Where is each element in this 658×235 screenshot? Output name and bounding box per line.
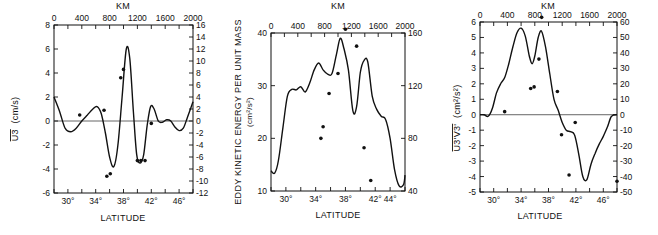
y-tick-label: -1 [468, 125, 476, 135]
y2-tick-label: -10 [196, 176, 209, 186]
x2-tick-label: 400 [75, 13, 89, 23]
bottom-axis-title: LATITUDE [100, 213, 145, 223]
y-tick-label: 4 [471, 48, 476, 58]
y-tick-label: -4 [42, 164, 50, 174]
y-axis-unit: (cm²/s²) [452, 85, 462, 118]
x2-tick-label: 0 [478, 10, 483, 20]
y-tick-label: -2 [42, 140, 50, 150]
y2-tick-label: 40 [620, 48, 630, 58]
y-tick-label: -5 [468, 187, 476, 197]
data-point [615, 179, 619, 183]
y2-tick-label: 14 [196, 32, 206, 42]
y-tick-label: 6 [471, 17, 476, 27]
chart-panel-right: KM LATITUDE U3'V3' (cm²/s²) -5-4-3-2-101… [452, 1, 633, 221]
x2-tick-label: 400 [291, 21, 305, 31]
y2-tick-label: -50 [620, 187, 633, 197]
y-tick-label: 2 [45, 92, 50, 102]
y2-tick-label: -8 [196, 164, 204, 174]
y2-tick-label: 0 [196, 116, 201, 126]
y-axis-unit: (cm²/s²) [245, 97, 254, 127]
x-tick-label: 42° [145, 196, 158, 206]
x2-tick-label: 1600 [369, 21, 388, 31]
data-point [556, 90, 560, 94]
y2-tick-label: 50 [620, 32, 630, 42]
y-tick-label: 3 [471, 63, 476, 73]
x2-tick-label: 400 [500, 10, 514, 20]
x-tick-label: 34° [309, 194, 322, 204]
data-point [108, 172, 112, 176]
chart-panel-middle: KM LATITUDE EDDY KINETIC ENERGY PER UNIT… [233, 1, 422, 220]
y2-tick-label: 4 [196, 92, 201, 102]
bottom-axis-title: LATITUDE [517, 211, 562, 221]
data-point [532, 85, 536, 89]
x2-tick-label: 1200 [553, 10, 572, 20]
y2-tick-label: -12 [196, 188, 209, 198]
x-tick-label: 30° [487, 195, 500, 205]
x2-tick-label: 2000 [396, 21, 415, 31]
y-tick-label: -6 [42, 188, 50, 198]
y2-tick-label: -10 [620, 125, 633, 135]
y-tick-label: 30 [258, 81, 268, 91]
data-point [369, 179, 373, 183]
data-point [560, 133, 564, 137]
y2-tick-label: 0 [620, 110, 625, 120]
x2-tick-label: 800 [318, 21, 332, 31]
data-point [355, 44, 359, 48]
x2-tick-label: 2000 [184, 13, 203, 23]
top-axis-title: KM [116, 1, 130, 11]
y2-tick-label: -30 [620, 156, 633, 166]
data-point [344, 28, 348, 32]
y2-tick-label: 30 [620, 63, 630, 73]
data-point [119, 76, 123, 80]
chart-panel-left: KM LATITUDE U3 (cm/s) -6-4-202468-12-10-… [10, 1, 209, 223]
data-point [537, 57, 541, 61]
y2-tick-label: 2 [196, 104, 201, 114]
data-point [319, 137, 323, 141]
data-point [139, 159, 143, 163]
x2-tick-label: 0 [52, 13, 57, 23]
y2-tick-label: 6 [196, 80, 201, 90]
y-axis-var: U3 [10, 129, 20, 141]
y-tick-label: -3 [468, 156, 476, 166]
y-tick-label: 8 [45, 20, 50, 30]
x-tick-label: 46° [173, 196, 186, 206]
y-tick-label: 1 [471, 94, 476, 104]
x-tick-label: 34° [89, 196, 102, 206]
x2-tick-label: 0 [269, 21, 274, 31]
y2-tick-label: 10 [620, 94, 630, 104]
plot-area: 10203040408012016030°34°38°42°44°0400800… [258, 21, 423, 204]
x2-tick-label: 800 [528, 10, 542, 20]
y2-tick-label: -2 [196, 128, 204, 138]
y-axis-unit: (cm/s) [10, 97, 20, 124]
plot-frame [480, 22, 617, 192]
plot-frame [54, 25, 193, 193]
x-tick-label: 44° [384, 194, 397, 204]
x-tick-label: 38° [117, 196, 130, 206]
y-tick-label: 0 [45, 116, 50, 126]
data-curve [271, 38, 405, 187]
y2-tick-label: 120 [408, 81, 422, 91]
data-point [529, 87, 533, 91]
y-tick-label: 4 [45, 68, 50, 78]
y2-tick-label: 80 [408, 133, 418, 143]
x-tick-label: 38° [542, 195, 555, 205]
data-curve [480, 28, 617, 181]
x-tick-label: 30° [279, 194, 292, 204]
data-point [336, 72, 340, 76]
data-point [327, 92, 331, 96]
y2-tick-label: -20 [620, 141, 633, 151]
y-tick-label: 40 [258, 28, 268, 38]
y-tick-label: -2 [468, 141, 476, 151]
x-tick-label: 30° [61, 196, 74, 206]
x-tick-label: 46° [597, 195, 610, 205]
y-axis-var: U3'V3' [452, 124, 462, 152]
y2-tick-label: 40 [408, 186, 418, 196]
plot-frame [271, 33, 405, 191]
data-point [573, 121, 577, 125]
data-point [143, 159, 147, 163]
y-tick-label: 20 [258, 133, 268, 143]
x2-tick-label: 1200 [128, 13, 147, 23]
data-point [136, 159, 140, 163]
x-tick-label: 38° [339, 194, 352, 204]
x2-tick-label: 1600 [156, 13, 175, 23]
